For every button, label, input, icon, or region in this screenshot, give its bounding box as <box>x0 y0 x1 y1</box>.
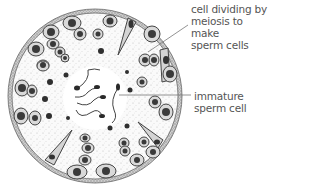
label-cell-dividing-by-meiosis: cell dividing by meiosis to make sperm c… <box>191 3 268 51</box>
label-immature-sperm-cell: immature sperm cell <box>194 90 268 114</box>
lumen <box>63 66 127 130</box>
